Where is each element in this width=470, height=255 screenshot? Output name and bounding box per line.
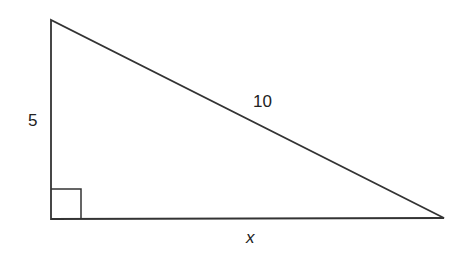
horizontal-leg-label: x: [245, 228, 255, 247]
right-triangle-diagram: 5 10 x: [0, 0, 470, 255]
hypotenuse-label: 10: [253, 92, 272, 111]
vertical-leg-label: 5: [28, 111, 37, 130]
right-angle-marker: [51, 189, 81, 219]
triangle: [51, 20, 444, 219]
